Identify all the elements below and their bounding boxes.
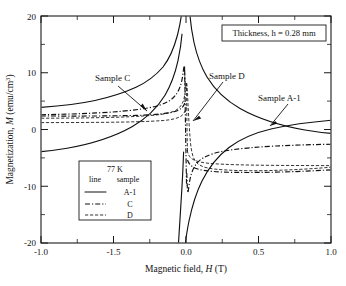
thickness-note-suffix: = 0.28 mm <box>276 28 316 38</box>
thickness-note-box: Thickness, h = 0.28 mm <box>222 25 326 41</box>
curve-sample-d-return-lower <box>187 150 331 166</box>
y-axis-title-suffix: (emu/cm <box>5 80 16 117</box>
x-tick-label-4: 1.0 <box>325 247 337 257</box>
y-tick-label-0: 0 <box>32 125 37 135</box>
curve-sample-a1-upper <box>41 16 181 107</box>
thickness-note-prefix: Thickness, <box>232 28 271 38</box>
magnetization-hysteresis-chart: 20 10 0 -10 -20 -1.0 -1.5 0.0 0.5 1.0 Ma… <box>0 0 346 286</box>
y-axis-title-tail: ) <box>5 74 16 77</box>
annotation-arrow-sample-a1 <box>270 104 288 126</box>
annotation-arrow-sample-d <box>193 82 223 121</box>
y-axis-right-ticks <box>324 16 331 243</box>
annotation-label-sample-c: Sample C <box>95 73 130 83</box>
y-tick-label-20: 20 <box>27 12 37 22</box>
legend-label-d: D <box>127 211 133 220</box>
y-tick-label-10: 10 <box>27 68 37 78</box>
y-tick-label-minus-10: -10 <box>24 182 36 192</box>
x-axis-title-suffix: (T) <box>212 264 227 275</box>
figure-container: 20 10 0 -10 -20 -1.0 -1.5 0.0 0.5 1.0 Ma… <box>0 0 346 286</box>
x-tick-label-0: -1.0 <box>34 247 49 257</box>
legend-label-c: C <box>127 200 132 209</box>
curve-sample-a1-lower-right <box>186 120 332 243</box>
x-tick-label-1: -1.5 <box>106 247 121 257</box>
annotation-label-sample-a1: Sample A-1 <box>258 93 301 103</box>
legend-title-temperature: 77 K <box>107 165 123 174</box>
x-axis-top-ticks <box>41 16 331 23</box>
curve-sample-a1-center-down <box>179 152 184 243</box>
x-axis-title: Magnetic field, H (T) <box>145 264 227 275</box>
legend-label-a1: A-1 <box>124 188 136 197</box>
legend-header-line: line <box>89 175 101 184</box>
x-tick-label-2: 0.0 <box>180 247 192 257</box>
x-axis-title-prefix: Magnetic field, <box>145 264 205 274</box>
curve-sample-a1-lower-left <box>41 34 182 151</box>
y-axis-title: Magnetization, M (emu/cm3) <box>4 74 16 184</box>
annotation-arrow-sample-c <box>118 86 147 111</box>
x-tick-label-3: 0.5 <box>253 247 265 257</box>
y-axis-title-prefix: Magnetization, <box>5 125 15 185</box>
legend-box: 77 K line sample A-1 C D <box>79 161 151 220</box>
annotation-label-sample-d: Sample D <box>209 71 245 81</box>
legend-header-sample: sample <box>117 175 140 184</box>
thickness-note-text: Thickness, h = 0.28 mm <box>232 28 315 38</box>
y-axis-major-ticks <box>41 16 48 243</box>
